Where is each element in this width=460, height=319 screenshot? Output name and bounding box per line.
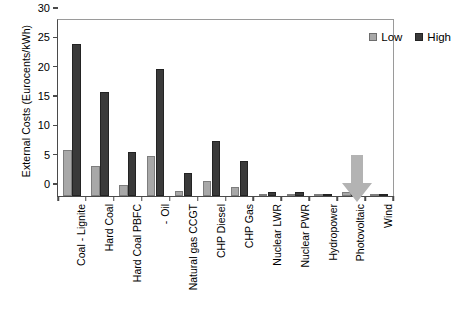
x-axis-tick-label: CHP Diesel [215,204,227,258]
bar-group [86,20,114,196]
y-axis-tick-label: 15 [26,90,50,102]
bar-low [259,194,268,196]
y-axis-tick: 25 [26,31,58,43]
x-axis-tick-label: - Oil [159,204,171,224]
down-arrow-icon [340,155,374,203]
bar-low [287,194,296,196]
x-axis-tick-mark [253,196,255,201]
bar-low [231,187,240,196]
legend-label: High [427,31,451,43]
y-axis-tick: 15 [26,90,58,102]
bar-high [295,192,304,196]
bar-low [63,150,72,196]
bar-high [128,152,137,196]
x-axis-tick-label: CHP Gas [243,204,255,248]
bar-high [156,69,165,196]
bar-high [240,161,249,196]
x-axis-tick-label: Hard Coal PBFC [131,204,143,282]
chart-figure: External Costs (Eurocents/kWh) 051015202… [0,0,460,319]
chart-legend: LowHigh [369,31,451,43]
bar-low [147,156,156,196]
x-axis-tick-mark [57,196,59,201]
y-axis-tick: 5 [26,149,58,161]
bar-group [114,20,142,196]
x-axis-tick-mark [113,196,115,201]
legend-label: Low [381,31,402,43]
bar-group [198,20,226,196]
bar-low [175,191,184,196]
oil-label-dash: - [159,221,171,225]
x-axis-tick-mark [169,196,171,201]
y-axis-tick-label: 20 [26,61,50,73]
y-axis-tick-label: 30 [26,2,50,14]
y-axis-tick-label: 10 [26,119,50,131]
bar-high [212,141,221,196]
legend-swatch [415,33,423,41]
bar-high [184,173,193,196]
x-axis-tick-mark [141,196,143,201]
x-axis-tick-mark [392,196,394,201]
legend-item-low[interactable]: Low [369,31,402,43]
bar-low [314,194,323,196]
bar-group [281,20,309,196]
bar-group [170,20,198,196]
x-axis-tick-mark [85,196,87,201]
y-axis-tick: 30 [26,2,58,14]
y-axis-tick-mark [53,7,58,9]
bar-group [58,20,86,196]
bar-high [268,192,277,196]
x-axis-tick-label: Hard Coal [103,204,115,251]
y-axis-tick-label: 25 [26,31,50,43]
x-axis-tick-label: Natural gas CCGT [187,204,199,290]
x-axis-tick-mark [225,196,227,201]
legend-swatch [369,33,377,41]
x-axis-tick-mark [197,196,199,201]
bar-high [379,194,388,196]
y-axis-tick: 10 [26,119,58,131]
bar-low [119,185,128,196]
bar-group [142,20,170,196]
y-axis-tick: 20 [26,61,58,73]
x-axis-tick-label: Hydropower [327,204,339,261]
y-axis-tick: 0 [26,178,58,190]
bar-group [253,20,281,196]
bar-high [72,44,81,196]
y-axis-tick-label: 0 [26,178,50,190]
x-axis-tick-label: Nuclear PWR [299,204,311,268]
x-axis-tick-mark [309,196,311,201]
bar-group [226,20,254,196]
x-axis-tick-label: Photovoltaic [354,204,366,261]
y-axis-tick-label: 5 [26,149,50,161]
x-axis-tick-mark [281,196,283,201]
x-axis-tick-label: Coal - Lignite [75,204,87,266]
x-axis-tick-label: Wind [382,204,394,228]
x-axis-tick-label: Nuclear LWR [271,204,283,266]
bar-low [203,181,212,196]
bar-group [309,20,337,196]
bar-high [100,92,109,196]
legend-item-high[interactable]: High [415,31,451,43]
bar-low [91,166,100,197]
bar-high [323,194,332,196]
x-axis-tick-mark [336,196,338,201]
